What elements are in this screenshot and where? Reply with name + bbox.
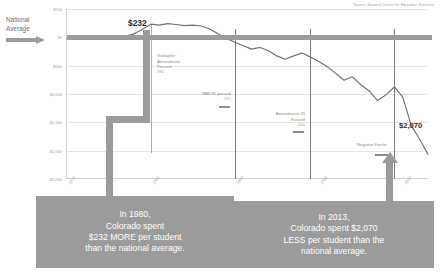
event-label-gallagher-line3: Passed <box>157 64 171 69</box>
event-year-gallagher: 1982 <box>157 70 180 76</box>
infographic-root: Source: National Center for Education St… <box>0 0 440 275</box>
caption-right-line1: In 2013, <box>318 212 349 223</box>
caption-box-left: In 1980, Colorado spent $232 MORE per st… <box>36 196 234 268</box>
event-label-negative-factor-line1: Negative Factor <box>357 142 387 147</box>
event-year-amendment23: 2000 <box>249 123 305 129</box>
event-label-gallagher-line1: Gallagher <box>157 53 176 58</box>
chart-plot-area: Gallagher Amendment Passed 1982 TABOR pa… <box>66 9 428 179</box>
caption-left-line2: Colorado spent <box>106 221 164 232</box>
event-dash-tabor <box>219 106 230 108</box>
national-average-legend: National Average <box>6 16 52 33</box>
event-label-gallagher-line2: Amendment <box>157 59 180 64</box>
callout-trough-2070: $2,070 <box>399 121 422 130</box>
y-tick-m1000: -$1,000 <box>36 92 62 97</box>
event-dash-amendment23 <box>293 131 304 133</box>
trough-up-arrow-icon <box>382 152 398 163</box>
source-note: Source: National Center for Education St… <box>353 3 434 7</box>
national-average-label-line2: Average <box>6 25 52 34</box>
national-average-band <box>67 35 432 40</box>
event-label-amendment23-line2: Passed <box>291 117 305 122</box>
caption-left-line1: In 1980, <box>119 209 150 220</box>
y-tick-500: $500 <box>36 7 62 12</box>
caption-right-line4: national average. <box>301 246 367 257</box>
connector-stem-right <box>386 160 393 204</box>
caption-right-line3: LESS per student than the <box>284 235 385 246</box>
event-label-gallagher: Gallagher Amendment Passed 1982 <box>157 53 180 76</box>
connector-stem-left-lower <box>106 116 113 196</box>
caption-left-line3: $232 MORE per student <box>89 232 182 243</box>
national-average-label-line1: National <box>6 16 52 25</box>
event-year-tabor: 1992 <box>183 97 231 103</box>
caption-right-line2: Colorado spent $2,070 <box>291 223 378 234</box>
event-label-negative-factor: Negative Factor <box>323 142 387 148</box>
y-tick-0: $0 <box>36 35 62 40</box>
peak-marker-dot <box>143 31 150 38</box>
callout-peak-232: $232 <box>128 18 147 28</box>
y-tick-m2500: -$2,500 <box>36 177 62 182</box>
event-label-amendment23: Amendment 23 Passed 2000 <box>249 111 305 128</box>
connector-stem-left-upper <box>143 30 150 123</box>
event-label-amendment23-line1: Amendment 23 <box>276 111 305 116</box>
y-tick-m500: -$500 <box>36 63 62 68</box>
event-label-tabor-line1: TABOR passed <box>201 91 231 96</box>
y-tick-m2000: -$2,000 <box>36 148 62 153</box>
y-tick-m1500: -$1,500 <box>36 120 62 125</box>
event-label-tabor: TABOR passed 1992 <box>183 91 231 103</box>
caption-left-line4: than the national average. <box>85 243 184 254</box>
caption-box-right: In 2013, Colorado spent $2,070 LESS per … <box>234 201 434 268</box>
